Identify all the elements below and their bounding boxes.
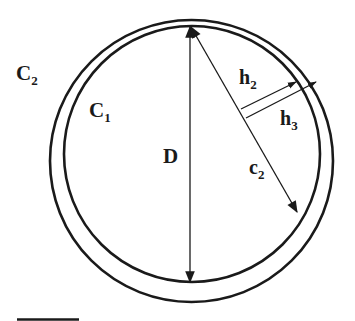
circle-c2 <box>50 20 333 302</box>
label-h3: h3 <box>280 107 298 133</box>
label-c1: C1 <box>89 98 111 125</box>
label-d: D <box>163 144 178 168</box>
label-c2: C2 <box>16 61 38 88</box>
circle-c1 <box>64 26 320 282</box>
diagram-figure: C2 C1 D h2 h3 c2 <box>0 0 355 321</box>
label-h2: h2 <box>239 66 257 92</box>
label-chord-c2: c2 <box>249 156 264 182</box>
